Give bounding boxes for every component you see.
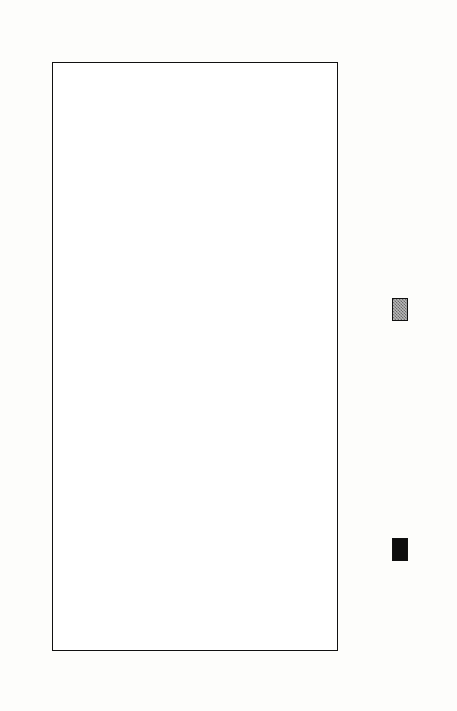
legend-swatch-black-icon <box>392 538 408 561</box>
legend-item-partnerships <box>392 529 408 561</box>
plot-area <box>52 62 338 651</box>
rotated-chart-canvas <box>0 0 457 711</box>
legend-item-partners <box>392 289 408 321</box>
chart-screenshot <box>0 0 457 711</box>
plot-inner <box>53 63 337 650</box>
bar-series-container <box>53 63 337 650</box>
legend-swatch-hatch-icon <box>392 298 408 321</box>
